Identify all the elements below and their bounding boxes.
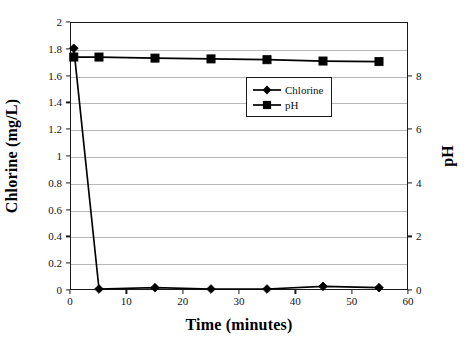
axis-tick bbox=[407, 290, 408, 294]
y-axis-left-tick-label: 0.8 bbox=[24, 177, 62, 188]
axis-tick bbox=[351, 290, 352, 294]
y-axis-right-tick-label: 2 bbox=[416, 231, 446, 242]
x-axis-tick-label: 10 bbox=[121, 296, 132, 307]
axis-tick bbox=[66, 102, 70, 103]
data-point-marker bbox=[95, 53, 103, 61]
axis-tick bbox=[66, 182, 70, 183]
series-chlorine bbox=[69, 44, 383, 293]
x-axis-tick-label: 0 bbox=[67, 296, 73, 307]
y-axis-right-tick-label: 6 bbox=[416, 124, 446, 135]
y-axis-left-tick-label: 0.6 bbox=[24, 204, 62, 215]
data-point-marker bbox=[263, 56, 271, 64]
plot-area bbox=[70, 22, 408, 290]
legend-item: pH bbox=[252, 97, 324, 112]
data-point-marker bbox=[95, 285, 104, 294]
series-line bbox=[74, 48, 379, 289]
data-point-marker bbox=[151, 283, 160, 292]
y-axis-left-tick-label: 1.4 bbox=[24, 97, 62, 108]
axis-tick bbox=[408, 182, 412, 183]
data-point-marker bbox=[70, 53, 78, 61]
axis-tick bbox=[126, 290, 127, 294]
axis-tick bbox=[295, 290, 296, 294]
axis-tick bbox=[182, 290, 183, 294]
data-point-marker bbox=[375, 58, 383, 66]
y-axis-left-tick-label: 1.6 bbox=[24, 70, 62, 81]
legend-diamond-marker-icon bbox=[252, 83, 282, 97]
data-point-marker bbox=[207, 285, 216, 294]
data-point-marker bbox=[375, 283, 384, 292]
legend-square-marker-icon bbox=[252, 98, 282, 112]
data-layer bbox=[71, 23, 407, 289]
data-point-marker bbox=[263, 285, 272, 294]
y-axis-right-title: pH bbox=[439, 145, 457, 166]
x-axis-tick-label: 20 bbox=[177, 296, 188, 307]
axis-tick bbox=[66, 209, 70, 210]
y-axis-right-tick-label: 0 bbox=[416, 285, 446, 296]
data-point-marker bbox=[319, 282, 328, 291]
x-axis-tick-label: 40 bbox=[290, 296, 301, 307]
axis-tick bbox=[408, 75, 412, 76]
y-axis-left-tick-label: 1 bbox=[24, 151, 62, 162]
y-axis-left-tick-label: 0.4 bbox=[24, 231, 62, 242]
y-axis-right-tick-label: 8 bbox=[416, 70, 446, 81]
axis-tick bbox=[66, 129, 70, 130]
series-line bbox=[74, 57, 379, 62]
axis-tick bbox=[66, 155, 70, 156]
x-axis-title: Time (minutes) bbox=[186, 316, 293, 334]
chart-figure: 00.20.40.60.811.21.41.61.82 02468 010203… bbox=[0, 0, 467, 348]
axis-tick bbox=[66, 48, 70, 49]
y-axis-right-tick-label: 4 bbox=[416, 177, 446, 188]
legend-item-label: Chlorine bbox=[282, 84, 324, 96]
axis-tick bbox=[238, 290, 239, 294]
axis-tick bbox=[66, 75, 70, 76]
axis-tick bbox=[66, 21, 70, 22]
x-axis-tick-label: 60 bbox=[403, 296, 414, 307]
chart-legend: ChlorinepH bbox=[246, 77, 332, 117]
axis-tick bbox=[69, 290, 70, 294]
axis-tick bbox=[66, 263, 70, 264]
axis-tick bbox=[66, 236, 70, 237]
x-axis-tick-label: 50 bbox=[346, 296, 357, 307]
data-point-marker bbox=[319, 57, 327, 65]
legend-item-label: pH bbox=[282, 99, 298, 111]
data-point-marker bbox=[207, 55, 215, 63]
data-point-marker bbox=[151, 54, 159, 62]
y-axis-left-tick-label: 1.2 bbox=[24, 124, 62, 135]
y-axis-left-tick-label: 1.8 bbox=[24, 43, 62, 54]
data-point-marker bbox=[69, 44, 78, 53]
y-axis-left-tick-label: 0 bbox=[24, 285, 62, 296]
axis-tick bbox=[408, 289, 412, 290]
legend-item: Chlorine bbox=[252, 82, 324, 97]
axis-tick bbox=[408, 236, 412, 237]
x-axis-tick-label: 30 bbox=[234, 296, 245, 307]
y-axis-left-tick-label: 0.2 bbox=[24, 258, 62, 269]
y-axis-left-tick-label: 2 bbox=[24, 17, 62, 28]
axis-tick bbox=[408, 129, 412, 130]
y-axis-left-title: Chlorine (mg/L) bbox=[3, 99, 21, 214]
series-ph bbox=[70, 53, 383, 66]
